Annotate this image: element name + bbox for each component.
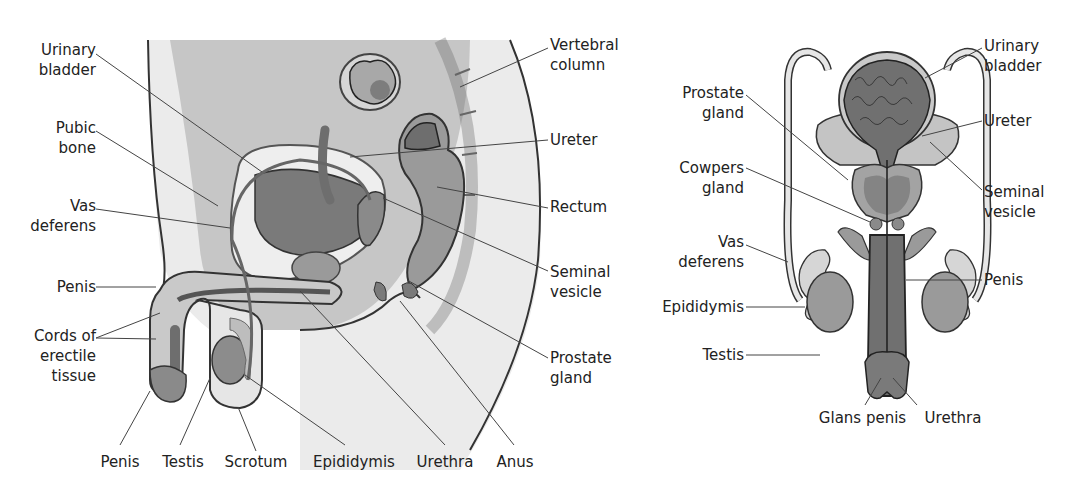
label-front-epididymis: Epididymis: [645, 297, 744, 317]
label-vas-deferens: Vas deferens: [10, 196, 96, 236]
label-vertebral-column: Vertebral column: [550, 35, 619, 75]
label-front-urethra: Urethra: [918, 408, 988, 428]
label-front-glans-penis: Glans penis: [815, 408, 910, 428]
label-front-penis: Penis: [984, 270, 1023, 290]
label-front-urinary-bladder: Urinary bladder: [984, 36, 1041, 76]
label-front-vas-deferens: Vas deferens: [650, 232, 744, 272]
label-epididymis: Epididymis: [310, 452, 398, 472]
label-penis-bottom: Penis: [95, 452, 145, 472]
label-urethra: Urethra: [410, 452, 480, 472]
label-front-ureter: Ureter: [984, 111, 1031, 131]
label-penis-side: Penis: [10, 277, 96, 297]
front-view-panel: Urinary bladder Prostate gland Ureter Co…: [640, 0, 1069, 493]
label-pubic-bone: Pubic bone: [10, 118, 96, 158]
side-view-panel: Urinary bladder Pubic bone Vas deferens …: [0, 0, 640, 493]
label-rectum: Rectum: [550, 197, 607, 217]
label-anus: Anus: [490, 452, 540, 472]
label-seminal-vesicle: Seminal vesicle: [550, 262, 610, 302]
label-front-testis: Testis: [650, 345, 744, 365]
side-view-drawing: [0, 0, 640, 493]
label-front-prostate-gland: Prostate gland: [650, 83, 744, 123]
label-ureter: Ureter: [550, 130, 597, 150]
label-scrotum: Scrotum: [222, 452, 290, 472]
label-urinary-bladder: Urinary bladder: [10, 40, 96, 80]
label-front-cowpers-gland: Cowpers gland: [650, 158, 744, 198]
label-cords-of-erectile-tissue: Cords of erectile tissue: [10, 326, 96, 386]
label-prostate-gland: Prostate gland: [550, 348, 612, 388]
label-front-seminal-vesicle: Seminal vesicle: [984, 182, 1044, 222]
label-testis: Testis: [158, 452, 208, 472]
